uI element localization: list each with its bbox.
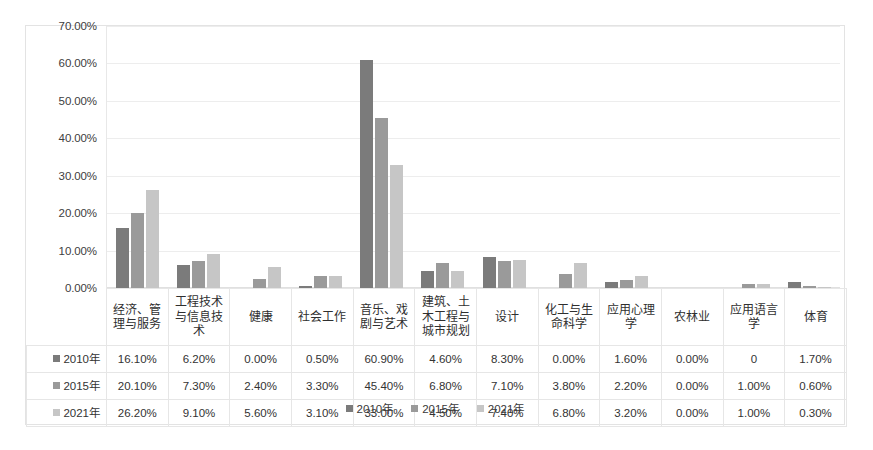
bar-2021年-音乐、戏剧与艺术[interactable] (390, 165, 403, 289)
bar-2015年-社会工作[interactable] (314, 276, 327, 288)
category-header-cell: 健康 (230, 289, 292, 346)
bar-group (718, 26, 779, 288)
value-cell: 0.60% (785, 373, 847, 400)
value-cell: 0.00% (661, 373, 723, 400)
bar-group (351, 26, 412, 288)
y-axis-tick-label: 70.00% (59, 20, 97, 32)
category-header-cell: 体育 (785, 289, 847, 346)
value-cell: 7.30% (168, 373, 230, 400)
bar-2015年-经济、管理与服务[interactable] (131, 213, 144, 288)
bar-2010年-音乐、戏剧与艺术[interactable] (360, 60, 373, 288)
series-name: 2015年 (63, 380, 100, 392)
y-axis-tick-label: 40.00% (59, 132, 97, 144)
bar-2015年-建筑、土木工程与城市规划[interactable] (436, 263, 449, 288)
value-cell: 3.30% (291, 373, 353, 400)
plot-area (106, 26, 840, 288)
bar-2021年-建筑、土木工程与城市规划[interactable] (451, 271, 464, 288)
table-row-categories: 经济、管理与服务工程技术与信息技术健康社会工作音乐、戏剧与艺术建筑、土木工程与城… (27, 289, 847, 346)
category-header-cell: 音乐、戏剧与艺术 (353, 289, 415, 346)
table-corner-cell (27, 289, 107, 346)
category-header-cell: 应用心理学 (600, 289, 662, 346)
value-cell: 3.80% (538, 373, 600, 400)
legend-swatch-icon (411, 405, 418, 412)
series-swatch-icon (53, 355, 60, 362)
value-cell: 0 (723, 346, 785, 373)
legend-item[interactable]: 2010年 (346, 400, 394, 416)
category-header-cell: 经济、管理与服务 (107, 289, 169, 346)
category-header-cell: 设计 (476, 289, 538, 346)
value-cell: 6.20% (168, 346, 230, 373)
value-cell: 16.10% (107, 346, 169, 373)
bars-layer (107, 26, 840, 288)
bar-2010年-建筑、土木工程与城市规划[interactable] (421, 271, 434, 288)
value-cell: 8.30% (476, 346, 538, 373)
bar-2021年-工程技术与信息技术[interactable] (207, 254, 220, 288)
category-header-cell: 农林业 (661, 289, 723, 346)
y-axis-tick-label: 30.00% (59, 170, 97, 182)
bar-group (779, 26, 840, 288)
value-cell: 1.70% (785, 346, 847, 373)
value-cell: 6.80% (415, 373, 477, 400)
bar-2021年-健康[interactable] (268, 267, 281, 288)
value-cell: 60.90% (353, 346, 415, 373)
bar-2015年-化工与生命科学[interactable] (559, 274, 572, 288)
value-cell: 1.60% (600, 346, 662, 373)
bar-2010年-经济、管理与服务[interactable] (116, 228, 129, 288)
legend-item[interactable]: 2021年 (477, 400, 525, 416)
value-cell: 4.60% (415, 346, 477, 373)
category-header-cell: 化工与生命科学 (538, 289, 600, 346)
bar-2015年-健康[interactable] (253, 279, 266, 288)
chart-container: 0.00%10.00%20.00%30.00%40.00%50.00%60.00… (25, 25, 845, 425)
y-axis-tick-label: 50.00% (59, 95, 97, 107)
bar-2015年-工程技术与信息技术[interactable] (192, 261, 205, 288)
chart-legend: 2010年2015年2021年 (26, 400, 844, 416)
value-cell: 7.10% (476, 373, 538, 400)
value-cell: 20.10% (107, 373, 169, 400)
bar-group (473, 26, 534, 288)
value-cell: 0.00% (661, 346, 723, 373)
series-name: 2010年 (63, 353, 100, 365)
bar-2021年-经济、管理与服务[interactable] (146, 190, 159, 288)
legend-swatch-icon (346, 405, 353, 412)
bar-group (107, 26, 168, 288)
bar-2010年-设计[interactable] (483, 257, 496, 288)
y-axis-tick-label: 20.00% (59, 207, 97, 219)
series-label-cell: 2010年 (27, 346, 107, 373)
legend-item[interactable]: 2015年 (411, 400, 459, 416)
bar-2010年-工程技术与信息技术[interactable] (177, 265, 190, 288)
value-cell: 45.40% (353, 373, 415, 400)
value-cell: 2.40% (230, 373, 292, 400)
bar-2021年-化工与生命科学[interactable] (574, 263, 587, 288)
legend-swatch-icon (477, 405, 484, 412)
table-row: 2015年20.10%7.30%2.40%3.30%45.40%6.80%7.1… (27, 373, 847, 400)
bar-2021年-社会工作[interactable] (329, 276, 342, 288)
series-swatch-icon (53, 382, 60, 389)
bar-2015年-音乐、戏剧与艺术[interactable] (375, 118, 388, 288)
legend-label: 2010年 (357, 400, 394, 416)
bar-group (168, 26, 229, 288)
table-row: 2010年16.10%6.20%0.00%0.50%60.90%4.60%8.3… (27, 346, 847, 373)
legend-label: 2015年 (422, 400, 459, 416)
category-header-cell: 社会工作 (291, 289, 353, 346)
category-header-cell: 工程技术与信息技术 (168, 289, 230, 346)
value-cell: 2.20% (600, 373, 662, 400)
bar-group (535, 26, 596, 288)
bar-2021年-应用心理学[interactable] (635, 276, 648, 288)
bar-group (596, 26, 657, 288)
category-header-cell: 建筑、土木工程与城市规划 (415, 289, 477, 346)
category-header-cell: 应用语言学 (723, 289, 785, 346)
y-axis-tick-label: 10.00% (59, 245, 97, 257)
value-cell: 0.00% (538, 346, 600, 373)
value-cell: 1.00% (723, 373, 785, 400)
bar-group (290, 26, 351, 288)
bar-group (412, 26, 473, 288)
legend-label: 2021年 (488, 400, 525, 416)
bar-2015年-应用心理学[interactable] (620, 280, 633, 288)
y-axis-tick-label: 60.00% (59, 57, 97, 69)
value-cell: 0.00% (230, 346, 292, 373)
bar-group (229, 26, 290, 288)
series-label-cell: 2015年 (27, 373, 107, 400)
bar-2015年-设计[interactable] (498, 261, 511, 288)
plot-region: 0.00%10.00%20.00%30.00%40.00%50.00%60.00… (26, 26, 846, 288)
bar-2021年-设计[interactable] (513, 260, 526, 288)
